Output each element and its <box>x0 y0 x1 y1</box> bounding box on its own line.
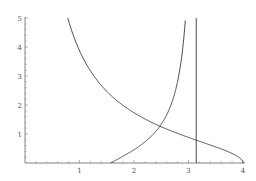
y-tick-label: 2 <box>18 102 22 110</box>
y-tick-label: 4 <box>18 44 23 52</box>
plot-area: 123412345 <box>0 0 256 181</box>
y-tick-label: 1 <box>18 131 22 139</box>
curve-decreasing <box>68 18 243 163</box>
curve-increasing <box>111 21 186 163</box>
x-tick-label: 1 <box>77 167 81 175</box>
y-tick-label: 5 <box>18 15 22 23</box>
curves <box>68 18 243 163</box>
x-tick-label: 4 <box>241 167 246 175</box>
x-tick-label: 2 <box>132 167 136 175</box>
y-tick-label: 3 <box>18 73 22 81</box>
x-tick-label: 3 <box>186 167 190 175</box>
